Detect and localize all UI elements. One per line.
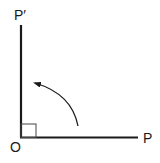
right-angle-marker — [21, 124, 36, 138]
label-point: P — [143, 130, 152, 146]
rotation-diagram: P′ O P — [0, 0, 160, 163]
label-origin: O — [10, 139, 21, 155]
rotation-arc-arrow-icon — [35, 83, 78, 126]
label-rotated-point: P′ — [14, 7, 26, 23]
